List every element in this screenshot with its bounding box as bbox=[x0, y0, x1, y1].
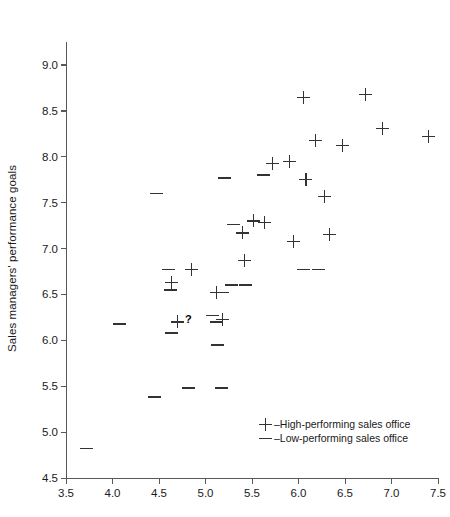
data-point-low-performing bbox=[239, 284, 252, 286]
legend-label-high-performing: –High-performing sales office bbox=[273, 417, 410, 431]
y-axis-tick bbox=[61, 294, 66, 295]
legend-item-high-performing: –High-performing sales office bbox=[258, 417, 410, 431]
x-axis-tick bbox=[252, 479, 253, 484]
data-point-low-performing bbox=[113, 323, 126, 325]
data-point-low-performing bbox=[162, 269, 175, 271]
y-axis-tick-label: 7.5 bbox=[18, 197, 58, 209]
x-axis-tick-label: 4.5 bbox=[134, 487, 184, 499]
y-axis-tick bbox=[61, 202, 66, 203]
data-point-high-performing bbox=[309, 134, 322, 147]
x-axis-tick-label: 7.5 bbox=[413, 487, 450, 499]
data-point-high-performing bbox=[376, 122, 389, 135]
data-point-high-performing bbox=[323, 228, 336, 241]
x-axis-tick bbox=[66, 479, 67, 484]
data-point-low-performing bbox=[150, 193, 163, 195]
data-point-high-performing bbox=[247, 214, 260, 227]
y-axis-tick-label: 6.5 bbox=[18, 288, 58, 300]
y-axis-tick-label: 6.0 bbox=[18, 334, 58, 346]
data-point-high-performing bbox=[236, 226, 249, 239]
data-point-high-performing bbox=[165, 276, 178, 289]
data-point-low-performing bbox=[227, 224, 240, 226]
data-point-high-performing bbox=[210, 286, 223, 299]
y-axis-tick bbox=[61, 248, 66, 249]
x-axis-tick-label: 6.0 bbox=[274, 487, 324, 499]
y-axis-tick bbox=[61, 110, 66, 111]
data-point-high-performing bbox=[359, 88, 372, 101]
data-point-high-performing bbox=[336, 139, 349, 152]
x-axis-tick bbox=[298, 479, 299, 484]
y-axis-tick-label: 7.0 bbox=[18, 243, 58, 255]
y-axis-tick-label: 8.5 bbox=[18, 105, 58, 117]
data-point-low-performing bbox=[210, 321, 223, 323]
data-point-low-performing bbox=[312, 269, 325, 271]
data-point-high-performing bbox=[299, 173, 312, 186]
data-point-low-performing bbox=[297, 269, 310, 271]
legend-label-low-performing: –Low-performing sales office bbox=[273, 431, 408, 445]
x-axis-tick-label: 7.0 bbox=[367, 487, 417, 499]
data-point-low-performing bbox=[80, 448, 93, 450]
x-axis-tick bbox=[159, 479, 160, 484]
x-axis-tick-label: 5.5 bbox=[227, 487, 277, 499]
data-point-low-performing bbox=[164, 289, 177, 291]
data-point-high-performing bbox=[318, 190, 331, 203]
y-axis-line bbox=[66, 42, 67, 478]
y-axis-tick bbox=[61, 340, 66, 341]
data-point-high-performing bbox=[216, 313, 229, 326]
point-annotation-question-mark: ? bbox=[185, 314, 192, 325]
dash-marker-icon bbox=[258, 431, 273, 445]
data-point-low-performing bbox=[182, 387, 195, 389]
data-point-high-performing bbox=[258, 216, 271, 229]
x-axis-tick bbox=[205, 479, 206, 484]
data-point-high-performing bbox=[422, 130, 435, 143]
plus-marker-icon bbox=[258, 417, 273, 431]
x-axis-tick-label: 6.5 bbox=[320, 487, 370, 499]
data-point-high-performing bbox=[171, 315, 184, 328]
y-axis-tick-label: 9.0 bbox=[18, 59, 58, 71]
x-axis-tick bbox=[438, 479, 439, 484]
x-axis-tick bbox=[345, 479, 346, 484]
data-point-low-performing bbox=[211, 344, 224, 346]
data-point-high-performing bbox=[297, 91, 310, 104]
data-point-low-performing bbox=[218, 177, 231, 179]
y-axis-tick bbox=[61, 156, 66, 157]
x-axis-tick bbox=[112, 479, 113, 484]
data-point-high-performing bbox=[287, 235, 300, 248]
chart-legend: –High-performing sales office –Low-perfo… bbox=[258, 417, 410, 445]
y-axis-tick bbox=[61, 432, 66, 433]
x-axis-tick-label: 5.0 bbox=[181, 487, 231, 499]
y-axis-tick-label: 4.5 bbox=[18, 472, 58, 484]
y-axis-tick-label: 5.0 bbox=[18, 426, 58, 438]
y-axis-tick bbox=[61, 64, 66, 65]
x-axis-tick-label: 4.0 bbox=[88, 487, 138, 499]
y-axis-tick-label: 8.0 bbox=[18, 151, 58, 163]
x-axis-tick bbox=[391, 479, 392, 484]
y-axis-title: Sales managers' performance goals bbox=[2, 0, 22, 517]
data-point-low-performing bbox=[215, 387, 228, 389]
data-point-high-performing bbox=[266, 157, 279, 170]
data-point-low-performing bbox=[206, 315, 219, 317]
data-point-low-performing bbox=[216, 292, 229, 294]
data-point-high-performing bbox=[185, 263, 198, 276]
data-point-low-performing bbox=[225, 284, 238, 286]
data-point-low-performing bbox=[165, 332, 178, 334]
data-point-low-performing bbox=[257, 174, 270, 176]
data-point-low-performing bbox=[148, 396, 161, 398]
y-axis-tick bbox=[61, 386, 66, 387]
legend-item-low-performing: –Low-performing sales office bbox=[258, 431, 410, 445]
data-point-high-performing bbox=[283, 155, 296, 168]
data-point-high-performing bbox=[238, 254, 251, 267]
y-axis-tick-label: 5.5 bbox=[18, 380, 58, 392]
x-axis-tick-label: 3.5 bbox=[41, 487, 91, 499]
